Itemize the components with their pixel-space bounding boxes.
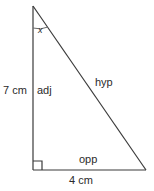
angle-label-x: x [38, 26, 43, 35]
adjacent-side-length-label: 7 cm [3, 85, 27, 96]
triangle-diagram-canvas: x 7 cm adj hyp opp 4 cm [0, 0, 154, 191]
opposite-side-length-label: 4 cm [69, 175, 93, 186]
adjacent-side-name-label: adj [37, 85, 52, 96]
opposite-side-name-label: opp [79, 154, 97, 165]
hypotenuse-side-name-label: hyp [95, 77, 113, 88]
right-angle-marker-icon [33, 161, 42, 170]
